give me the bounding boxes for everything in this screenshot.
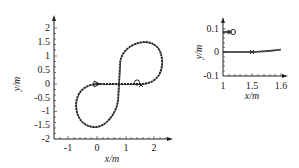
right-xtick-label: 1.6 bbox=[275, 80, 288, 91]
left-ytick-label: 0.5 bbox=[38, 64, 51, 75]
left-y-axis-label: y/m bbox=[11, 77, 22, 92]
left-ytick-label: 2 bbox=[45, 22, 50, 33]
right-ytick-label: 0.1 bbox=[207, 23, 220, 34]
right-x-axis-arrow-icon bbox=[282, 74, 288, 78]
right-chart: 0.1 0 -0.1 1 1.5 1.6 x/m y/m bbox=[193, 17, 288, 101]
left-xtick-label: 2 bbox=[152, 142, 157, 153]
left-y-axis-arrow-icon bbox=[52, 15, 56, 21]
left-ytick-label: 0 bbox=[45, 78, 50, 89]
left-ytick-label: -0.5 bbox=[34, 92, 50, 103]
right-xtick-label: 1 bbox=[221, 80, 226, 91]
right-y-axis-label: y/m bbox=[193, 45, 204, 60]
figure: 2 1.5 1 0.5 0 -0.5 -1 -1.5 -2 -1 0 1 2 x… bbox=[0, 0, 299, 168]
left-x-axis-label: x/m bbox=[104, 153, 119, 164]
left-ytick-label: -2 bbox=[42, 133, 50, 144]
left-x-axis-arrow-icon bbox=[167, 137, 173, 141]
left-ytick-label: 1.5 bbox=[38, 36, 51, 47]
left-xtick-label: 1 bbox=[124, 142, 129, 153]
right-ytick-label: -0.1 bbox=[203, 70, 219, 81]
right-ytick-label: 0 bbox=[214, 46, 219, 57]
left-xtick-label: 0 bbox=[95, 142, 100, 153]
left-ytick-label: 1 bbox=[45, 50, 50, 61]
left-ytick-label: -1.5 bbox=[34, 119, 50, 130]
left-ytick-label: -1 bbox=[42, 105, 50, 116]
left-xtick-label: -1 bbox=[64, 142, 72, 153]
right-y-axis-arrow-icon bbox=[221, 17, 225, 23]
left-chart: 2 1.5 1 0.5 0 -0.5 -1 -1.5 -2 -1 0 1 2 x… bbox=[11, 15, 173, 164]
right-x-axis-label: x/m bbox=[244, 90, 259, 101]
